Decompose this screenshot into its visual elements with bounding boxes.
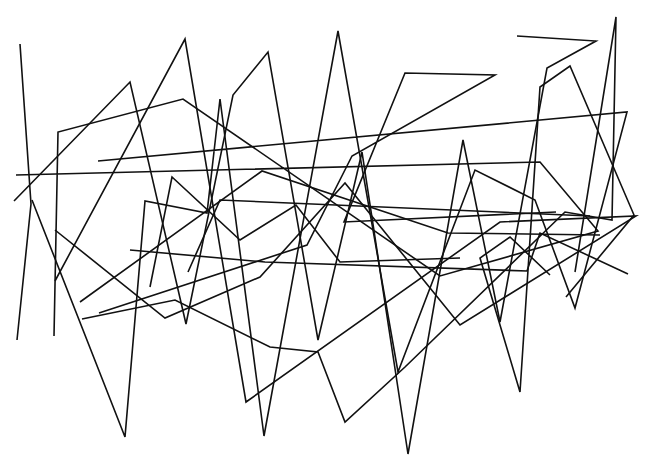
line-segment-2 (16, 99, 598, 336)
line-segment-11 (80, 171, 600, 302)
line-segment-9 (480, 66, 634, 392)
abstract-line-drawing (0, 0, 646, 468)
line-segment-0 (17, 44, 31, 340)
